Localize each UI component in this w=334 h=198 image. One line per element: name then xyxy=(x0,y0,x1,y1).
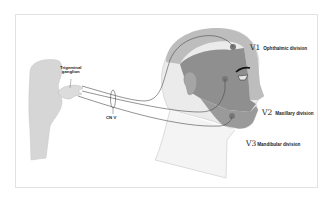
ganglion-label: Trigeminal ganglion xyxy=(60,66,82,75)
v3-label: V3Mandibular division xyxy=(246,133,300,149)
v3-number: V3 xyxy=(246,139,256,148)
v2-name: Maxillary division xyxy=(275,111,313,116)
v1-number: V1 xyxy=(250,43,260,52)
trigeminal-ganglion xyxy=(58,85,83,99)
trigeminal-diagram xyxy=(0,0,334,198)
v2-number: V2 xyxy=(262,108,272,117)
ganglion-label-line2: ganglion xyxy=(60,70,82,74)
cn-v-label: CN V xyxy=(106,116,116,120)
cn-v-ring xyxy=(111,90,116,108)
v1-name: Ophthalmic division xyxy=(263,46,307,51)
v3-name: Mandibular division xyxy=(257,142,300,147)
brainstem xyxy=(29,60,62,161)
v1-label: V1Ophthalmic division xyxy=(250,37,307,53)
v2-label: V2Maxillary division xyxy=(262,102,314,118)
